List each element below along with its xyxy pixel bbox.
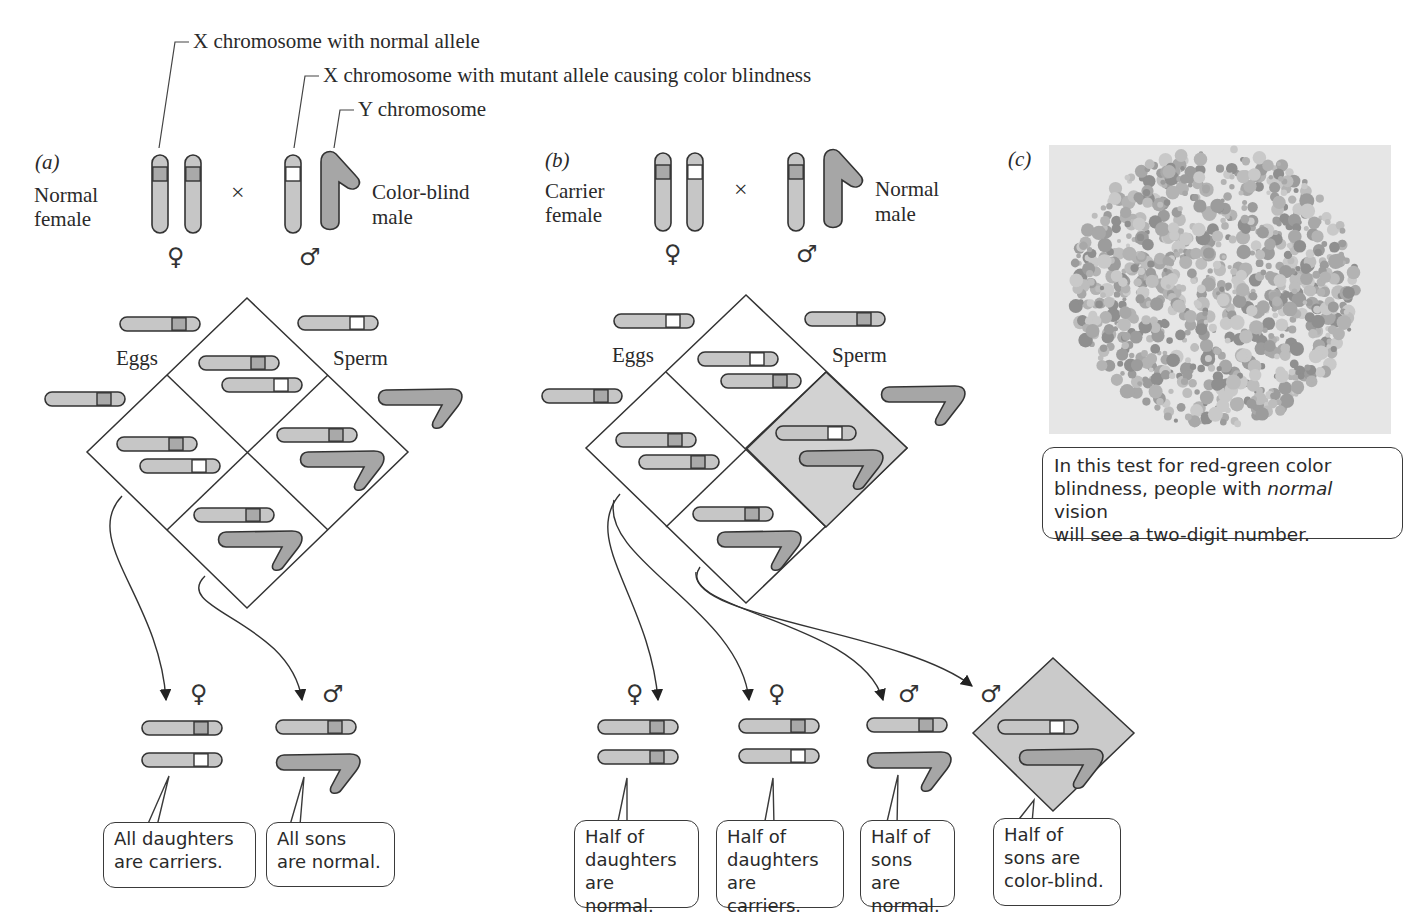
panel-a-tag: (a) (35, 150, 60, 175)
callout-line: sons are (871, 848, 944, 894)
callout-line: blindness, people with normal vision (1054, 477, 1391, 523)
callout-pointers (147, 775, 1034, 826)
panel-a-punnett-square (45, 298, 462, 608)
male-x-normal (788, 153, 804, 231)
callout-all-sons-normal: All sons are normal. (266, 822, 395, 887)
female-x-normal-2 (185, 155, 201, 233)
callout-line: daughters (585, 848, 688, 871)
panel-a-parents (152, 152, 359, 233)
male-symbol-icon: ♂ (796, 240, 818, 268)
female-x-normal (655, 153, 671, 231)
panel-b-punnett-square (542, 295, 965, 603)
male-y (321, 152, 359, 230)
callout-all-daughters-carriers: All daughters are carriers. (103, 822, 256, 888)
callout-line: will see a two-digit number. (1054, 523, 1391, 546)
panel-a-male-label-1: Color-blind (372, 180, 470, 205)
panel-a-female-label-2: female (34, 207, 91, 232)
female-symbol-icon: ♀ (768, 680, 786, 708)
legend-x-mutant: X chromosome with mutant allele causing … (323, 63, 811, 88)
callout-line: are normal. (277, 850, 384, 873)
callout-ishihara-caption: In this test for red-green color blindne… (1042, 447, 1403, 539)
panel-a-eggs-label: Eggs (116, 346, 158, 371)
callout-line: color-blind. (1004, 869, 1110, 892)
female-x-normal-1 (152, 155, 168, 233)
panel-a-female-label-1: Normal (34, 183, 98, 208)
male-symbol-icon: ♂ (322, 680, 344, 708)
callout-line: All sons (277, 827, 384, 850)
callout-line: All daughters (114, 827, 245, 850)
callout-half-sons-normal: Half of sons are normal. (860, 820, 955, 907)
male-x-mutant (285, 155, 301, 233)
legend-leader-lines (159, 42, 354, 148)
female-symbol-icon: ♀ (664, 240, 682, 268)
panel-b-eggs-label: Eggs (612, 343, 654, 368)
legend-y-chromosome: Y chromosome (358, 97, 486, 122)
panel-a-male-label-2: male (372, 205, 413, 230)
callout-line: Half of (871, 825, 944, 848)
callout-line: Half of (585, 825, 688, 848)
caption-emphasis: normal (1267, 478, 1332, 499)
panel-b-male-label-2: male (875, 202, 916, 227)
callout-half-sons-color-blind: Half of sons are color-blind. (993, 818, 1121, 906)
callout-line: daughters (727, 848, 833, 871)
callout-line: are carriers. (727, 871, 833, 917)
callout-line: Half of (727, 825, 833, 848)
callout-line: are carriers. (114, 850, 245, 873)
panel-a-sperm-label: Sperm (333, 346, 388, 371)
panel-b-cross-symbol: × (734, 177, 748, 202)
caption-text: blindness, people with (1054, 478, 1267, 499)
panel-b-female-label-2: female (545, 203, 602, 228)
caption-text: vision (1054, 501, 1108, 522)
panel-b-female-label-1: Carrier (545, 179, 604, 204)
callout-line: are normal. (585, 871, 688, 917)
callout-half-daughters-carriers: Half of daughters are carriers. (716, 820, 844, 908)
male-symbol-icon: ♂ (299, 243, 321, 271)
callout-half-daughters-normal: Half of daughters are normal. (574, 820, 699, 908)
callout-line: normal. (871, 894, 944, 917)
panel-c-tag: (c) (1008, 147, 1031, 172)
callout-line: In this test for red-green color (1054, 454, 1391, 477)
female-symbol-icon: ♀ (167, 243, 185, 271)
panel-b-male-label-1: Normal (875, 177, 939, 202)
panel-b-parents (655, 150, 862, 231)
female-symbol-icon: ♀ (626, 680, 644, 708)
panel-b-offspring (598, 658, 1134, 811)
female-x-mutant (687, 153, 703, 231)
callout-line: sons are (1004, 846, 1110, 869)
legend-x-normal: X chromosome with normal allele (193, 29, 480, 54)
male-symbol-icon: ♂ (898, 680, 920, 708)
male-y (824, 150, 862, 228)
male-symbol-icon: ♂ (980, 680, 1002, 708)
panel-a-cross-symbol: × (231, 180, 245, 205)
panel-b-sperm-label: Sperm (832, 343, 887, 368)
panel-b-tag: (b) (545, 148, 570, 173)
panel-a-offspring (142, 720, 360, 793)
callout-line: Half of (1004, 823, 1110, 846)
female-symbol-icon: ♀ (190, 680, 208, 708)
